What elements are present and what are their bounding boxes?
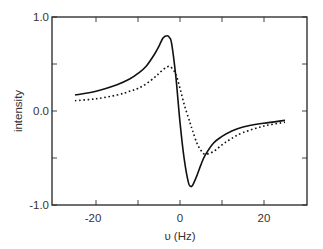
dotted-series-line — [75, 67, 285, 155]
y-tick-labels: 1.00.0-1.0 — [29, 11, 49, 211]
x-axis-label: υ (Hz) — [164, 230, 195, 242]
chart: -20020 1.00.0-1.0 υ (Hz) intensity — [0, 0, 323, 249]
x-tick-labels: -20020 — [85, 212, 271, 224]
solid-series-line — [75, 36, 285, 187]
y-tick-label: 1.0 — [33, 11, 49, 23]
x-tick-label: -20 — [85, 212, 102, 224]
y-tick-label: -1.0 — [29, 199, 49, 211]
y-tick-label: 0.0 — [33, 105, 49, 117]
x-tick-label: 0 — [177, 212, 183, 224]
x-tick-label: 20 — [258, 212, 271, 224]
y-axis-label: intensity — [12, 90, 24, 132]
